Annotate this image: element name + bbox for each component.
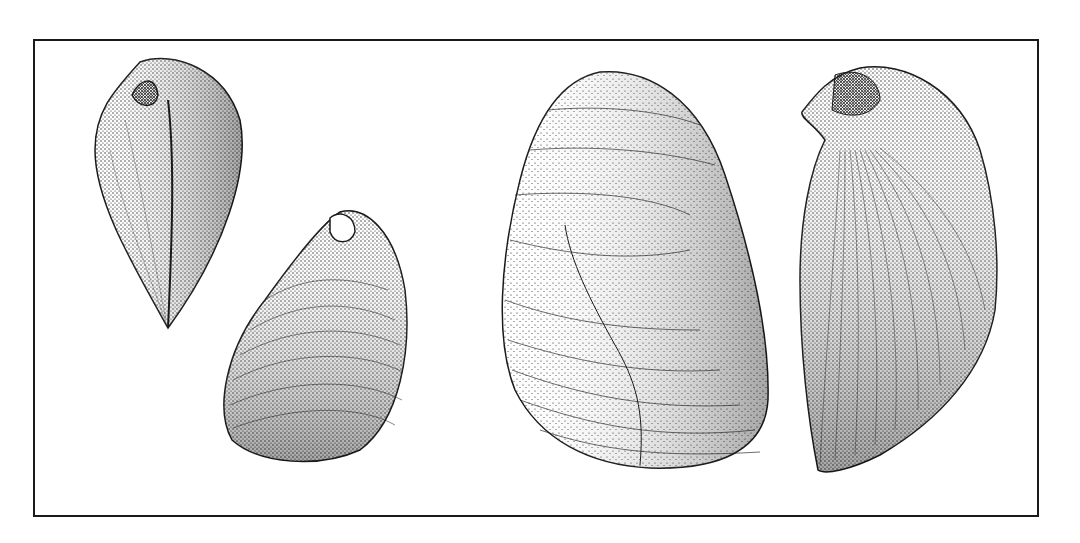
shell-1-dorsal-view	[95, 59, 242, 328]
shell-illustration-plate	[0, 0, 1080, 543]
shell-3-large-lateral-view	[502, 72, 768, 468]
shell-2-lateral-view	[224, 211, 407, 462]
shell-4-ribbed-lateral-view	[800, 67, 997, 472]
